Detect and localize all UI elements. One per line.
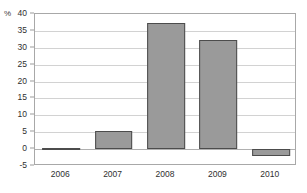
x-tick-label: 2010: [260, 169, 279, 179]
y-tick-label: 30: [18, 42, 27, 52]
bar-slot: [35, 14, 87, 164]
y-tick-label: 5: [22, 126, 27, 136]
y-tick-label: 10: [18, 109, 27, 119]
x-tick-label: 2008: [156, 169, 175, 179]
y-tick-label: 0: [22, 143, 27, 153]
y-tick-label: 35: [18, 25, 27, 35]
x-tick-label: 2006: [51, 169, 70, 179]
bars-group: [35, 14, 295, 164]
y-tick-label: 25: [18, 59, 27, 69]
bar[interactable]: [42, 148, 80, 150]
x-tick-label: 2009: [208, 169, 227, 179]
y-tick-label: -5: [19, 160, 27, 170]
bar[interactable]: [252, 149, 290, 156]
bar-slot: [245, 14, 296, 164]
bar-slot: [192, 14, 244, 164]
y-tick-label: 40: [18, 8, 27, 18]
bar-slot: [87, 14, 139, 164]
plot-area: [34, 13, 296, 165]
x-tick-label: 2007: [103, 169, 122, 179]
bar[interactable]: [95, 131, 133, 149]
y-tick-label: 20: [18, 76, 27, 86]
bar[interactable]: [147, 23, 185, 149]
bar[interactable]: [200, 40, 238, 149]
bar-chart-figure: % 4035302520151050-5 2006200720082009201…: [0, 0, 307, 193]
bar-slot: [140, 14, 192, 164]
y-tick-label: 15: [18, 92, 27, 102]
y-axis: 4035302520151050-5: [0, 0, 34, 193]
x-axis: 20062007200820092010: [34, 166, 296, 188]
